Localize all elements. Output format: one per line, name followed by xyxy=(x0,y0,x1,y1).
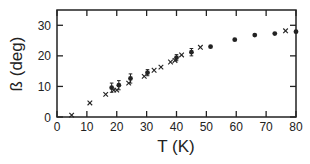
x-tick-label: 80 xyxy=(289,120,303,134)
y-tick-label: 10 xyxy=(38,80,52,94)
cross-marker xyxy=(198,45,203,50)
cross-marker xyxy=(168,60,173,65)
dot-marker xyxy=(294,29,299,34)
x-tick-label: 60 xyxy=(230,120,244,134)
dot-marker xyxy=(208,44,213,49)
dot-marker xyxy=(272,31,277,36)
cross-marker xyxy=(152,68,157,73)
cross-marker xyxy=(103,92,108,97)
plot-area: 010203040506070800102030 xyxy=(38,10,303,134)
cross-marker xyxy=(283,28,288,33)
dot-marker xyxy=(128,74,133,83)
dot-marker xyxy=(116,81,121,90)
x-tick-label: 70 xyxy=(259,120,273,134)
y-tick-label: 30 xyxy=(38,19,52,33)
cross-marker xyxy=(179,53,184,58)
y-tick-label: 20 xyxy=(38,49,52,63)
y-axis-title: ß (deg) xyxy=(7,37,26,92)
x-tick-label: 20 xyxy=(110,120,124,134)
cross-marker xyxy=(142,74,147,79)
x-tick-label: 50 xyxy=(200,120,214,134)
x-tick-label: 30 xyxy=(140,120,154,134)
cross-marker xyxy=(88,101,93,106)
x-axis-title: T (K) xyxy=(157,137,194,156)
dot-marker xyxy=(252,33,257,38)
x-tick-label: 40 xyxy=(170,120,184,134)
dot-marker xyxy=(189,49,194,56)
data-points xyxy=(69,28,298,117)
scatter-chart: 010203040506070800102030 T (K) ß (deg) xyxy=(0,0,310,164)
dot-marker xyxy=(232,37,237,42)
x-tick-label: 10 xyxy=(80,120,94,134)
cross-marker xyxy=(159,65,164,70)
x-tick-label: 0 xyxy=(54,120,61,134)
y-tick-label: 0 xyxy=(44,111,51,125)
plot-frame xyxy=(57,10,296,117)
